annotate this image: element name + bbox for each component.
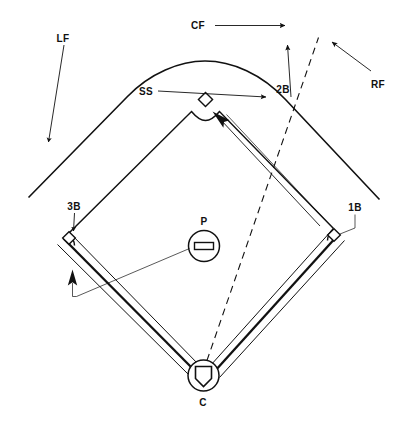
label-second-base: 2B bbox=[276, 84, 290, 95]
label-first-base: 1B bbox=[348, 202, 362, 213]
label-pitcher: P bbox=[200, 216, 207, 227]
outfield-fence bbox=[29, 61, 380, 200]
label-left-field: LF bbox=[56, 33, 69, 44]
first-base-leader-line bbox=[340, 215, 355, 235]
first-base-foul-line bbox=[211, 230, 345, 378]
right-field-arrow bbox=[332, 42, 371, 71]
label-catcher: C bbox=[199, 397, 207, 408]
label-right-field: RF bbox=[371, 79, 385, 90]
first-base-marker bbox=[328, 229, 341, 242]
third-base-foul-line bbox=[58, 233, 201, 379]
shortstop-arrow bbox=[158, 91, 266, 97]
label-shortstop: SS bbox=[139, 86, 153, 97]
pitcher-rubber bbox=[195, 243, 214, 250]
baseball-field-diagram: CF LF RF SS 2B 3B 1B P C bbox=[0, 0, 406, 429]
field-illustration: CF LF RF SS 2B 3B 1B P C bbox=[0, 0, 406, 429]
second-base-marker bbox=[198, 92, 212, 106]
label-center-field: CF bbox=[191, 20, 205, 31]
pitcher-mound-circle bbox=[189, 231, 220, 262]
catcher-circle bbox=[188, 360, 219, 391]
left-field-arrow bbox=[49, 45, 65, 142]
baseline-direction-arrow bbox=[213, 112, 327, 227]
label-third-base: 3B bbox=[67, 201, 81, 212]
